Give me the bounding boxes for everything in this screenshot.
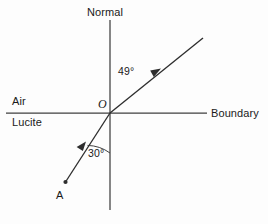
angle-of-refraction-label: 49°: [118, 66, 134, 77]
air-label: Air: [12, 96, 26, 107]
lucite-label: Lucite: [12, 117, 42, 128]
incident-ray-arrowhead: [77, 142, 86, 151]
point-a-label: A: [56, 190, 63, 201]
point-a-marker: [63, 180, 67, 184]
origin-label: O: [98, 98, 107, 110]
refraction-diagram: Normal Air Lucite Boundary O 49° 30° A: [0, 0, 268, 224]
boundary-label: Boundary: [211, 108, 259, 119]
angle-of-incidence-label: 30°: [88, 148, 104, 159]
normal-label: Normal: [87, 7, 123, 18]
